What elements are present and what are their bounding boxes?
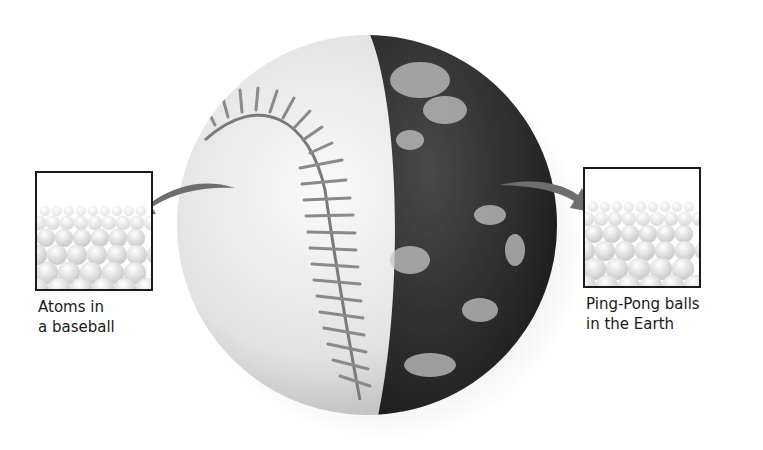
packed-pingpong-pattern (585, 169, 699, 286)
packed-atoms-pattern (37, 173, 151, 289)
left-inset-box (35, 171, 153, 291)
left-caption-line2: a baseball (38, 317, 115, 337)
right-caption-line2: in the Earth (586, 314, 700, 334)
right-inset-box (583, 167, 701, 288)
left-caption: Atoms in a baseball (38, 297, 115, 337)
right-caption: Ping-Pong balls in the Earth (586, 294, 700, 334)
left-caption-line1: Atoms in (38, 297, 115, 317)
right-caption-line1: Ping-Pong balls (586, 294, 700, 314)
figure-stage: Atoms in a baseball Ping-Pong balls in t… (0, 0, 763, 450)
